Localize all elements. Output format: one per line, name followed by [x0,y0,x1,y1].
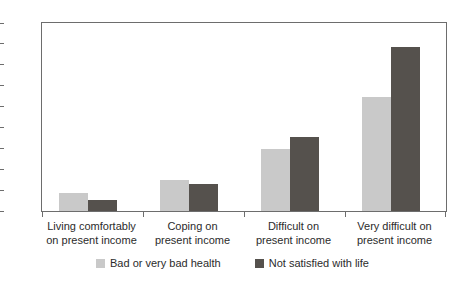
bar-group [345,23,446,211]
y-axis-tick-mark [0,190,4,191]
legend-swatch-icon [96,259,105,268]
x-axis-label-line-1: Difficult on [268,220,319,232]
x-axis-label: Living comfortablyon present income [37,220,147,247]
x-axis-label: Very difficult onpresent income [340,220,450,247]
bar-bad-health [362,97,391,211]
y-axis-tick-mark [0,127,4,128]
x-axis-tick-mark [42,212,43,217]
y-axis-tick-mark [0,23,4,24]
x-axis-label-line-1: Living comfortably [47,220,136,232]
y-axis-tick-mark [0,85,4,86]
bar-not-satisfied [189,184,218,211]
x-axis-labels: Living comfortablyon present incomeCopin… [41,220,447,250]
bar-bad-health [261,149,290,211]
x-axis-tick-mark [143,212,144,217]
bar-group [42,23,143,211]
legend-label: Not satisfied with life [269,257,369,269]
y-axis: 051015202530354045 [0,0,41,283]
y-axis-tick-mark [0,64,4,65]
x-axis-label: Difficult onpresent income [239,220,349,247]
legend-item-bad-health: Bad or very bad health [96,257,221,269]
y-axis-tick-mark [0,43,4,44]
chart-legend: Bad or very bad healthNot satisfied with… [0,255,465,271]
legend-label: Bad or very bad health [110,257,221,269]
bar-chart: 051015202530354045 Living comfortablyon … [0,0,465,283]
bar-group [143,23,244,211]
x-axis-label-line-1: Coping on [167,220,217,232]
y-axis-tick-mark [0,211,4,212]
x-axis-label-line-2: present income [340,234,450,248]
x-axis-tick-mark [445,212,446,217]
y-axis-tick-mark [0,148,4,149]
x-axis-label-line-2: present income [138,234,248,248]
x-axis-label: Coping onpresent income [138,220,248,247]
bars-layer [42,23,446,211]
x-axis-tick-mark [345,212,346,217]
y-axis-tick-mark [0,169,4,170]
bar-group [244,23,345,211]
bar-not-satisfied [88,200,117,211]
x-axis-tick-mark [244,212,245,217]
bar-bad-health [160,180,189,211]
x-axis-label-line-2: on present income [37,234,147,248]
x-axis-label-line-1: Very difficult on [357,220,431,232]
bar-not-satisfied [290,137,319,211]
bar-bad-health [59,193,88,211]
x-axis-label-line-2: present income [239,234,349,248]
legend-swatch-icon [255,259,264,268]
bar-not-satisfied [391,47,420,211]
y-axis-tick-mark [0,106,4,107]
x-axis-ticks [41,212,447,217]
legend-item-not-satisfied: Not satisfied with life [255,257,369,269]
